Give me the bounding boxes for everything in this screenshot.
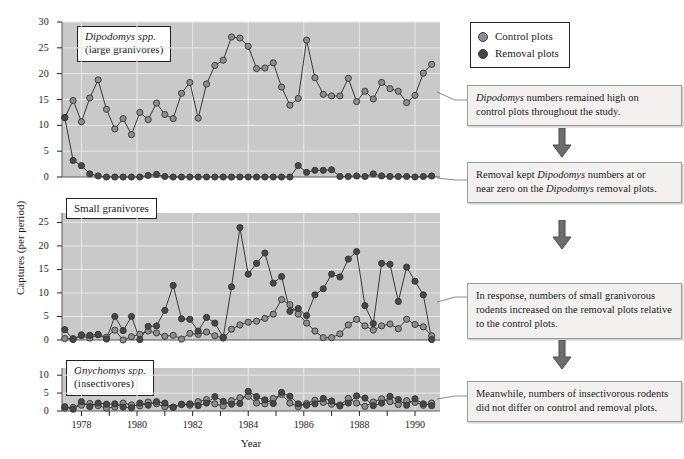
leader-lines: [0, 0, 684, 459]
figure-root: Captures (per period) Year Dipodomys spp…: [0, 0, 684, 459]
